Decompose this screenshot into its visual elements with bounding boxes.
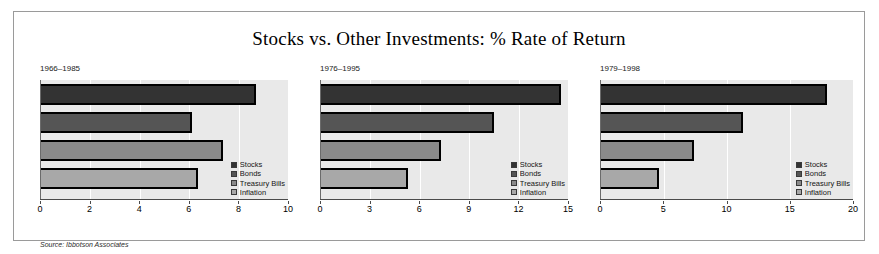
- legend-swatch-icon: [511, 180, 517, 186]
- plot-area: StocksBondsTreasury BillsInflation: [40, 80, 288, 199]
- bar-stocks: [601, 84, 827, 105]
- source-note: Source: Ibbotson Associates: [40, 241, 128, 248]
- figure-frame: Stocks vs. Other Investments: % Rate of …: [13, 11, 865, 241]
- chart-panel-1976-1995: 1976–1995 StocksBondsTreasury BillsInfla…: [308, 64, 578, 239]
- legend-swatch-icon: [231, 171, 237, 177]
- legend-swatch-icon: [796, 189, 802, 195]
- legend-label: Treasury Bills: [520, 179, 565, 188]
- legend-label: Bonds: [520, 169, 541, 178]
- legend-label: Bonds: [805, 169, 826, 178]
- bar-stocks: [321, 84, 561, 105]
- bar-treasury-bills: [321, 140, 441, 161]
- tick-label: 8: [236, 204, 241, 214]
- bar-row: [601, 112, 853, 133]
- bar-row: [321, 84, 568, 105]
- legend: StocksBondsTreasury BillsInflation: [796, 160, 850, 197]
- bar-bonds: [41, 112, 192, 133]
- x-axis-ticks: 05101520: [600, 201, 853, 215]
- tick-label: 0: [597, 204, 602, 214]
- tick-label: 0: [317, 204, 322, 214]
- tick-label: 9: [466, 204, 471, 214]
- legend-swatch-icon: [511, 189, 517, 195]
- legend-swatch-icon: [796, 171, 802, 177]
- panel-title: 1976–1995: [320, 64, 360, 73]
- bar-row: [41, 84, 288, 105]
- tick-label: 10: [721, 204, 731, 214]
- bar-row: [601, 140, 853, 161]
- tick-label: 10: [283, 204, 293, 214]
- bar-row: [41, 140, 288, 161]
- bar-row: [321, 112, 568, 133]
- legend-item: Bonds: [511, 169, 565, 178]
- bar-stocks: [41, 84, 256, 105]
- legend-label: Inflation: [240, 188, 266, 197]
- legend-label: Inflation: [805, 188, 831, 197]
- legend-label: Stocks: [520, 160, 543, 169]
- gridline: [853, 80, 854, 199]
- legend-swatch-icon: [796, 162, 802, 168]
- plot-area: StocksBondsTreasury BillsInflation: [600, 80, 853, 199]
- figure-title: Stocks vs. Other Investments: % Rate of …: [14, 28, 864, 50]
- legend-label: Inflation: [520, 188, 546, 197]
- bar-row: [321, 140, 568, 161]
- bar-row: [601, 84, 853, 105]
- legend-label: Stocks: [240, 160, 263, 169]
- tick-label: 4: [137, 204, 142, 214]
- legend-swatch-icon: [231, 189, 237, 195]
- legend-swatch-icon: [231, 162, 237, 168]
- tick-label: 5: [661, 204, 666, 214]
- legend-item: Bonds: [796, 169, 850, 178]
- plot-area: StocksBondsTreasury BillsInflation: [320, 80, 568, 199]
- legend-swatch-icon: [231, 180, 237, 186]
- legend-label: Stocks: [805, 160, 828, 169]
- gridline: [288, 80, 289, 199]
- bar-inflation: [41, 168, 198, 189]
- x-axis-ticks: 03691215: [320, 201, 568, 215]
- tick-label: 15: [563, 204, 573, 214]
- legend-item: Stocks: [231, 160, 285, 169]
- bar-treasury-bills: [41, 140, 223, 161]
- legend-swatch-icon: [511, 162, 517, 168]
- legend-item: Treasury Bills: [796, 179, 850, 188]
- legend-item: Inflation: [511, 188, 565, 197]
- panel-title: 1979–1998: [600, 64, 640, 73]
- x-axis-ticks: 0246810: [40, 201, 288, 215]
- legend-swatch-icon: [511, 171, 517, 177]
- tick-label: 6: [186, 204, 191, 214]
- gridline: [568, 80, 569, 199]
- legend: StocksBondsTreasury BillsInflation: [231, 160, 285, 197]
- legend-swatch-icon: [796, 180, 802, 186]
- legend: StocksBondsTreasury BillsInflation: [511, 160, 565, 197]
- bar-bonds: [321, 112, 494, 133]
- bar-inflation: [321, 168, 408, 189]
- tick-label: 3: [367, 204, 372, 214]
- legend-label: Treasury Bills: [240, 179, 285, 188]
- tick-label: 6: [417, 204, 422, 214]
- legend-item: Inflation: [231, 188, 285, 197]
- tick-label: 20: [848, 204, 858, 214]
- tick-label: 0: [37, 204, 42, 214]
- x-axis-line: [40, 199, 288, 200]
- bar-treasury-bills: [601, 140, 694, 161]
- legend-item: Stocks: [796, 160, 850, 169]
- x-axis-line: [320, 199, 568, 200]
- chart-panels: 1966–1985 StocksBondsTreasury BillsInfla…: [14, 64, 864, 239]
- chart-panel-1966-1985: 1966–1985 StocksBondsTreasury BillsInfla…: [28, 64, 298, 239]
- bar-inflation: [601, 168, 659, 189]
- bar-bonds: [601, 112, 743, 133]
- x-axis-line: [600, 199, 853, 200]
- legend-item: Treasury Bills: [231, 179, 285, 188]
- tick-label: 15: [785, 204, 795, 214]
- legend-item: Inflation: [796, 188, 850, 197]
- legend-label: Bonds: [240, 169, 261, 178]
- legend-item: Bonds: [231, 169, 285, 178]
- legend-item: Stocks: [511, 160, 565, 169]
- bar-row: [41, 112, 288, 133]
- legend-item: Treasury Bills: [511, 179, 565, 188]
- chart-panel-1979-1998: 1979–1998 StocksBondsTreasury BillsInfla…: [588, 64, 863, 239]
- legend-label: Treasury Bills: [805, 179, 850, 188]
- panel-title: 1966–1985: [40, 64, 80, 73]
- tick-label: 12: [513, 204, 523, 214]
- tick-label: 2: [87, 204, 92, 214]
